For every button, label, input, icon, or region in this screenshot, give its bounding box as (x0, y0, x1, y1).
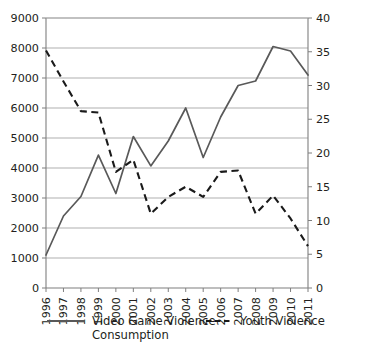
left-axis-tick-label: 1000 (11, 252, 39, 265)
right-axis-ticks (308, 18, 312, 288)
left-axis-tick-label: 4000 (11, 162, 39, 175)
dual-axis-line-chart: 0100020003000400050006000700080009000 05… (0, 0, 366, 356)
left-axis-tick-label: 0 (32, 282, 39, 295)
legend-label-line2: Consumption (92, 328, 169, 342)
left-axis-tick-labels: 0100020003000400050006000700080009000 (11, 12, 39, 295)
left-axis-tick-label: 8000 (11, 42, 39, 55)
right-axis-tick-label: 30 (316, 80, 330, 93)
left-axis-tick-label: 5000 (11, 132, 39, 145)
right-axis-tick-label: 25 (316, 113, 330, 126)
chart-container: 0100020003000400050006000700080009000 05… (0, 0, 366, 356)
right-axis-tick-label: 35 (316, 46, 330, 59)
legend-label: Youth Violence (239, 314, 325, 328)
left-axis-ticks (42, 18, 46, 288)
x-axis-ticks (46, 288, 308, 292)
left-axis-tick-label: 7000 (11, 72, 39, 85)
left-axis-tick-label: 2000 (11, 222, 39, 235)
right-axis-tick-label: 10 (316, 215, 330, 228)
series-line-youth-violence (46, 50, 308, 246)
right-axis-tick-label: 5 (316, 248, 323, 261)
left-axis-tick-label: 3000 (11, 192, 39, 205)
legend-label: Video Game Violence (92, 314, 216, 328)
right-axis-tick-label: 15 (316, 181, 330, 194)
left-axis-tick-label: 9000 (11, 12, 39, 25)
right-axis-tick-label: 20 (316, 147, 330, 160)
chart-legend: Video Game ViolenceConsumptionYouth Viol… (47, 314, 325, 342)
left-axis-tick-label: 6000 (11, 102, 39, 115)
right-axis-tick-label: 0 (316, 282, 323, 295)
plot-frame (46, 18, 308, 288)
right-axis-tick-labels: 0510152025303540 (316, 12, 330, 295)
right-axis-tick-label: 40 (316, 12, 330, 25)
